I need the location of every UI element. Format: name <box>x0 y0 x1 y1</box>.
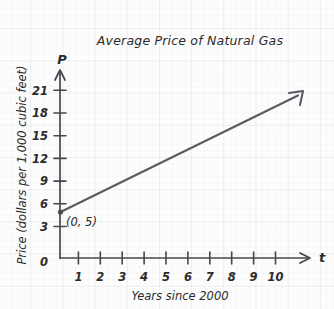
y-axis-tick-labels: 21 18 15 12 9 6 3 0 <box>32 84 48 270</box>
x-tick-label: 4 <box>139 270 148 284</box>
line-chart: Average Price of Natural Gas Price (doll… <box>0 0 334 309</box>
x-tick-label: 7 <box>206 270 214 284</box>
y-axis-title: Price (dollars per 1,000 cubic feet) <box>15 65 29 264</box>
x-tick-label: 6 <box>184 270 192 284</box>
x-tick-label: 8 <box>228 270 236 284</box>
y-tick-label: 18 <box>32 106 48 120</box>
y-tick-label: 21 <box>32 84 48 98</box>
chart-title: Average Price of Natural Gas <box>96 33 284 48</box>
y-axis-variable-label: P <box>57 52 67 67</box>
x-axis-tick-labels: 1 2 3 4 5 6 7 8 9 10 <box>74 270 283 284</box>
y-tick-label: 15 <box>32 129 48 143</box>
x-tick-label: 5 <box>162 270 170 284</box>
data-series-line <box>61 96 299 213</box>
chart-page: Average Price of Natural Gas Price (doll… <box>0 0 334 309</box>
y-tick-label: 6 <box>40 197 48 211</box>
point-annotation-label: (0, 5) <box>66 215 97 229</box>
x-axis-title: Years since 2000 <box>131 289 228 303</box>
y-tick-label: 3 <box>40 220 48 234</box>
y-tick-label: 9 <box>40 174 48 188</box>
x-axis-variable-label: t <box>319 250 326 265</box>
x-tick-label: 2 <box>96 270 104 284</box>
x-tick-label: 10 <box>267 270 283 284</box>
y-tick-label: 12 <box>32 152 48 166</box>
x-tick-label: 9 <box>250 270 258 284</box>
y-tick-label-origin: 0 <box>40 255 48 269</box>
y-intercept-point-marker <box>58 209 63 214</box>
x-tick-label: 3 <box>118 270 126 284</box>
x-tick-label: 1 <box>74 270 82 284</box>
